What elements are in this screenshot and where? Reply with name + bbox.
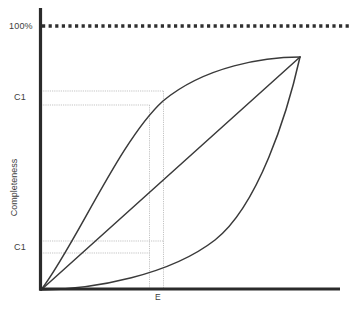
completeness-vs-effort-chart: 100% C1 C1 Completeness E <box>0 0 354 312</box>
y-axis-tick-label-c1-upper: C1 <box>14 93 26 102</box>
chart-canvas <box>0 0 354 312</box>
x-axis-title: E <box>155 293 161 302</box>
y-axis-tick-label-100-percent: 100% <box>9 22 33 31</box>
y-axis-title: Completeness <box>10 143 19 233</box>
y-axis-tick-label-c1-lower: C1 <box>14 243 26 252</box>
